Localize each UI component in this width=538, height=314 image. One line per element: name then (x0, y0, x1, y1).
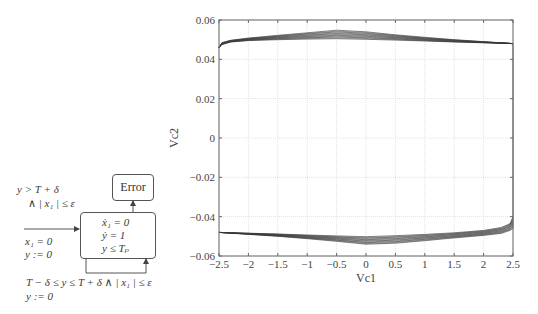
y-tick-label: 0 (210, 132, 216, 144)
x-tick-label: 0 (363, 258, 369, 270)
y-axis-label: Vc2 (167, 128, 181, 148)
x-axis-label: Vc1 (356, 271, 376, 285)
x-tick-label: −0.5 (327, 258, 347, 270)
y-tick-label: −0.06 (190, 250, 216, 262)
y-tick-label: −0.02 (190, 171, 215, 183)
y-tick-label: 0.02 (196, 93, 215, 105)
phase-plot: −2.5−2−1.5−1−0.500.511.522.5 0.060.040.0… (0, 0, 538, 314)
x-tick-label: −1.5 (268, 258, 288, 270)
x-tick-label: −1 (301, 258, 313, 270)
x-tick-label: 1.5 (447, 258, 461, 270)
x-tick-label: 0.5 (389, 258, 403, 270)
y-tick-label: −0.04 (190, 211, 216, 223)
x-tick-label: −2 (243, 258, 255, 270)
x-tick-label: 2 (481, 258, 487, 270)
y-tick-label: 0.06 (196, 14, 216, 26)
x-tick-label: 2.5 (506, 258, 520, 270)
y-tick-label: 0.04 (196, 53, 216, 65)
grid-lines (219, 20, 513, 256)
x-tick-label: 1 (422, 258, 428, 270)
